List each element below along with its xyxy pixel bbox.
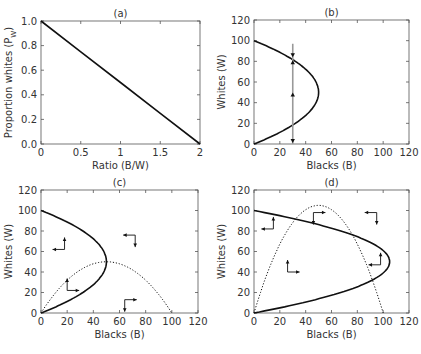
x-tick-label: 120 <box>188 316 207 327</box>
arrow-down-icon <box>291 53 295 57</box>
y-tick-label: 0.4 <box>21 89 37 100</box>
y-tick-label: 40 <box>24 267 37 278</box>
arrow-down-icon <box>375 221 379 225</box>
arrow-down-icon <box>133 244 137 248</box>
y-tick-label: 80 <box>237 56 250 67</box>
x-tick-label: 2 <box>197 147 203 158</box>
x-tick-label: 1 <box>117 147 123 158</box>
arrow-up-icon <box>291 92 295 96</box>
x-tick-label: 0 <box>38 316 44 327</box>
arrow-down-icon <box>123 308 127 312</box>
y-tick-label: 40 <box>237 267 250 278</box>
y-axis-label: Whites (W) <box>3 224 14 279</box>
arrow-up-icon <box>379 253 383 257</box>
x-tick-label: 20 <box>61 316 74 327</box>
x-tick-label: 60 <box>325 147 338 158</box>
y-tick-label: 0 <box>244 308 250 319</box>
whites-isocline <box>254 211 390 314</box>
x-tick-label: 20 <box>273 147 286 158</box>
y-axis-label: Whites (W) <box>216 224 227 279</box>
y-tick-label: 120 <box>18 185 37 196</box>
panel-title: (b) <box>324 7 338 18</box>
arrow-up-icon <box>272 217 276 221</box>
y-tick-label: 40 <box>237 97 250 108</box>
y-tick-label: 60 <box>237 77 250 88</box>
whites-isocline <box>41 21 200 144</box>
arrow-right-icon <box>76 289 80 293</box>
y-tick-label: 60 <box>237 246 250 257</box>
panel-c: (c)020406080100120020406080100120Blacks … <box>3 177 208 340</box>
y-tick-label: 20 <box>237 118 250 129</box>
plot-frame <box>254 20 409 144</box>
y-tick-label: 1.0 <box>21 16 37 27</box>
y-tick-label: 0 <box>244 139 250 150</box>
x-tick-label: 1.5 <box>152 147 168 158</box>
whites-isocline <box>41 211 106 314</box>
x-tick-label: 80 <box>351 316 364 327</box>
arrow-left-icon <box>261 227 265 231</box>
x-tick-label: 100 <box>374 147 393 158</box>
x-tick-label: 40 <box>299 147 312 158</box>
y-tick-label: 120 <box>231 185 250 196</box>
y-tick-label: 80 <box>24 226 37 237</box>
arrow-left-icon <box>53 248 57 252</box>
x-axis-label: Blacks (B) <box>94 329 144 340</box>
y-tick-label: 100 <box>231 205 250 216</box>
x-tick-label: 60 <box>113 316 126 327</box>
y-tick-label: 100 <box>18 205 37 216</box>
y-tick-label: 0.8 <box>21 40 37 51</box>
arrow-up-icon <box>63 237 67 241</box>
arrow-up-icon <box>286 260 290 264</box>
arrow-right-icon <box>322 211 326 215</box>
x-tick-label: 0 <box>38 147 44 158</box>
whites-isocline <box>254 41 319 144</box>
plot-frame <box>41 190 198 313</box>
x-tick-label: 40 <box>299 316 312 327</box>
arrow-down-icon <box>291 139 295 143</box>
y-tick-label: 0.2 <box>21 114 37 125</box>
y-tick-label: 0.0 <box>21 139 37 150</box>
x-tick-label: 100 <box>162 316 181 327</box>
x-axis-label: Blacks (B) <box>306 160 356 171</box>
panel-a: (a)00.511.520.00.20.40.60.81.0Ratio (B/W… <box>3 8 203 171</box>
arrow-left-icon <box>365 211 369 215</box>
arrow-left-icon <box>123 233 127 237</box>
panel-title: (d) <box>324 177 338 188</box>
x-tick-label: 0.5 <box>73 147 89 158</box>
x-tick-label: 20 <box>273 316 286 327</box>
y-tick-label: 20 <box>24 287 37 298</box>
y-tick-label: 100 <box>231 35 250 46</box>
panel-d: (d)020406080100120020406080100120Blacks … <box>216 177 419 340</box>
arrow-left-icon <box>369 263 373 267</box>
y-tick-label: 0.6 <box>21 65 37 76</box>
x-axis-label: Blacks (B) <box>306 329 356 340</box>
x-axis-label: Ratio (B/W) <box>92 160 149 171</box>
y-tick-label: 60 <box>24 246 37 257</box>
arrow-right-icon <box>133 298 137 302</box>
x-tick-label: 120 <box>399 316 418 327</box>
x-tick-label: 60 <box>325 316 338 327</box>
panel-title: (c) <box>113 177 126 188</box>
y-axis-label: Whites (W) <box>216 54 227 109</box>
y-axis-label: Proportion whites (PW) <box>3 27 18 138</box>
y-tick-label: 0 <box>31 308 37 319</box>
arrow-up-icon <box>65 278 69 282</box>
x-tick-label: 80 <box>351 147 364 158</box>
y-tick-label: 20 <box>237 287 250 298</box>
x-tick-label: 40 <box>87 316 100 327</box>
x-tick-label: 120 <box>399 147 418 158</box>
x-tick-label: 0 <box>251 316 257 327</box>
arrow-right-icon <box>296 270 300 274</box>
y-tick-label: 120 <box>231 15 250 26</box>
x-tick-label: 100 <box>374 316 393 327</box>
x-tick-label: 80 <box>139 316 152 327</box>
x-tick-label: 0 <box>251 147 257 158</box>
panel-b: (b)020406080100120020406080100120Blacks … <box>216 7 419 171</box>
figure: (a)00.511.520.00.20.40.60.81.0Ratio (B/W… <box>0 0 421 354</box>
panel-title: (a) <box>114 8 128 19</box>
y-tick-label: 80 <box>237 226 250 237</box>
